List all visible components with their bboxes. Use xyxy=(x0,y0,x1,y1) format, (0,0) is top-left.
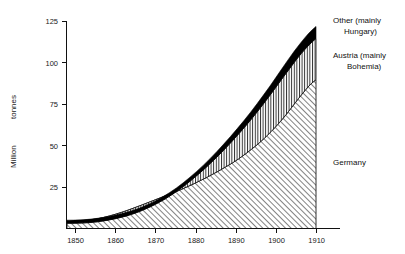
x-tick-label-1880: 1880 xyxy=(188,236,205,245)
series-label-other-line1: Other (mainly xyxy=(333,16,381,25)
y-tick-label-100: 100 xyxy=(45,59,58,68)
series-label-austria-line2: Bohemia) xyxy=(347,62,382,71)
series-label-germany: Germany xyxy=(333,158,366,167)
y-axis-tick-labels: 125 100 75 50 25 xyxy=(45,17,58,192)
coal-production-area-chart: 125 100 75 50 25 1850 1860 1870 1880 189… xyxy=(0,0,405,254)
x-tick-label-1870: 1870 xyxy=(148,236,165,245)
y-tick-label-125: 125 xyxy=(45,17,58,26)
y-tick-label-25: 25 xyxy=(50,183,58,192)
y-tick-label-50: 50 xyxy=(50,142,58,151)
x-tick-label-1850: 1850 xyxy=(67,236,84,245)
y-axis-title-line2: tonnes xyxy=(9,95,18,119)
x-tick-label-1900: 1900 xyxy=(268,236,285,245)
series-label-austria-line1: Austria (mainly xyxy=(333,51,386,60)
y-axis-title: Million tonnes xyxy=(9,95,18,168)
chart-canvas: 125 100 75 50 25 1850 1860 1870 1880 189… xyxy=(0,0,405,254)
y-tick-label-75: 75 xyxy=(50,100,58,109)
series-label-other-line2: Hungary) xyxy=(344,27,377,36)
y-axis-title-line1: Million xyxy=(9,145,18,168)
x-axis-tick-labels: 1850 1860 1870 1880 1890 1900 1910 xyxy=(67,236,325,245)
series-bands xyxy=(67,27,316,229)
x-axis-ticks xyxy=(76,229,317,234)
x-tick-label-1890: 1890 xyxy=(228,236,245,245)
x-tick-label-1860: 1860 xyxy=(107,236,124,245)
series-annotations: Other (mainly Hungary) Austria (mainly B… xyxy=(333,16,386,167)
x-tick-label-1910: 1910 xyxy=(308,236,325,245)
y-axis-ticks xyxy=(62,22,67,188)
